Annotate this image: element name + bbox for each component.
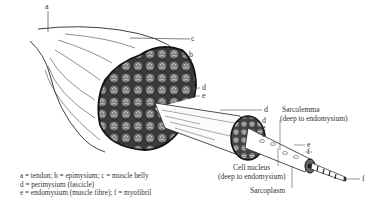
- label-f-fibre: f: [307, 148, 310, 156]
- legend: a = tendon; b = epimysium; c = muscle be…: [20, 172, 151, 198]
- label-f-myofibril: f: [362, 175, 365, 183]
- legend-line-2: d = perimysium (fascicle): [20, 181, 151, 190]
- label-cell-nucleus: Cell nucleus: [233, 164, 270, 172]
- label-sarcolemma-note: (deep to endomysium): [280, 115, 348, 123]
- label-d-fascicle-top: d: [264, 106, 268, 114]
- label-sarcoplasm: Sarcoplasm: [250, 187, 285, 195]
- label-a-tendon: a: [45, 3, 49, 11]
- label-f-myofibril-belly: f: [189, 59, 192, 67]
- legend-line-1: a = tendon; b = epimysium; c = muscle be…: [20, 172, 151, 181]
- label-c-muscle-belly: c: [191, 35, 195, 43]
- label-cell-nucleus-note: (deep to endomysium): [218, 173, 286, 181]
- label-e-endomysium-belly: e: [202, 92, 206, 100]
- label-f-fascicle: f: [262, 131, 265, 139]
- label-sarcolemma: Sarcolemma: [282, 106, 320, 114]
- legend-line-3: e = endomysium (muscle fibre); f = myofi…: [20, 189, 151, 198]
- myofibril: [311, 163, 345, 181]
- belly-cross-section: [98, 47, 196, 150]
